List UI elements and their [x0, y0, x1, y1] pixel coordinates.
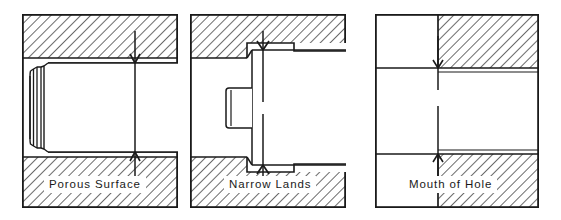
- tube-lip-outer: [44, 63, 48, 152]
- upper-material-hatch: [22, 14, 178, 58]
- panel-1-caption: Porous Surface: [44, 176, 146, 193]
- figure-canvas: Porous Surface: [0, 0, 561, 220]
- upper-right-material-hatch: [438, 14, 539, 68]
- panel-3-caption: Mouth of Hole: [404, 176, 497, 193]
- panel-2-caption: Narrow Lands: [224, 176, 316, 193]
- pilot-tang-fill: [226, 88, 252, 128]
- tube-body-fill: [48, 63, 178, 152]
